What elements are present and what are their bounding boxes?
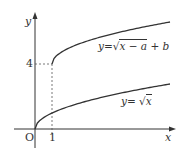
label-radicand: x	[146, 94, 152, 107]
origin-label: O	[25, 132, 34, 143]
sqrt-symbol-icon: √	[139, 95, 146, 107]
y-axis-arrow-icon	[33, 12, 38, 19]
y-axis-label: y	[25, 16, 31, 27]
label-prefix: y=	[121, 95, 139, 107]
x-tick-label: 1	[49, 132, 56, 143]
curve-label-sqrt: y= √x	[121, 96, 152, 107]
x-axis-label: x	[165, 132, 171, 143]
label-suffix: + b	[147, 40, 169, 52]
curve-label-shifted-sqrt: y=√x − a + b	[98, 41, 169, 52]
label-prefix: y=	[98, 40, 113, 52]
graph-figure: y x O 1 4 y=√x − a + b y= √x	[0, 0, 183, 156]
label-radicand: x − a	[119, 39, 147, 52]
y-tick-label: 4	[26, 58, 33, 69]
